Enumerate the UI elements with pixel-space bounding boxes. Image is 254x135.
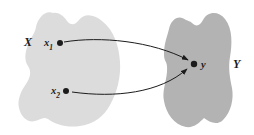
label-point-y: y: [199, 59, 206, 70]
function-mapping-diagram: X x1 x2 y Y: [0, 0, 254, 135]
domain-set-blob: [18, 12, 120, 126]
diagram-canvas: X x1 x2 y Y: [0, 0, 254, 135]
codomain-set-blob: [163, 13, 232, 127]
point-y-dot: [191, 61, 197, 67]
label-set-x: X: [23, 35, 33, 49]
point-x1-dot: [57, 40, 63, 46]
label-set-y: Y: [233, 57, 242, 71]
point-x2-dot: [63, 88, 69, 94]
